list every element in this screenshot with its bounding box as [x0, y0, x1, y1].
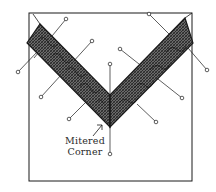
pin-icon: [147, 12, 171, 36]
band-left-arm: [27, 24, 110, 127]
mitered-corner-label: Mitered Corner: [64, 135, 106, 157]
pin-icon: [188, 48, 209, 72]
pin-icon: [67, 100, 88, 121]
pin-icon: [137, 104, 158, 124]
mitered-corner-diagram: [0, 0, 216, 192]
pin-icon: [16, 51, 38, 74]
label-line-1: Mitered: [64, 135, 106, 146]
label-line-2: Corner: [64, 146, 106, 157]
band-right-arm: [110, 18, 193, 127]
